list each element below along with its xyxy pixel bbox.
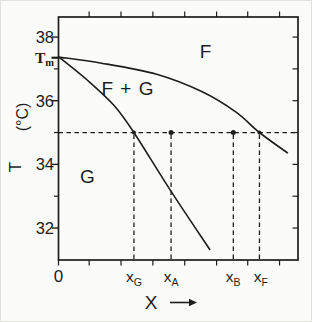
marker-dot-xA <box>169 130 174 135</box>
x-axis-arrow-head <box>189 299 197 306</box>
curve-upper-boundary-F-liquidus <box>59 57 288 153</box>
y-tick-label-36: 36 <box>36 92 54 110</box>
region-label-F+G: F + G <box>101 78 154 99</box>
y-tick-label-32: 32 <box>36 219 54 237</box>
tm-label: Tm <box>35 49 54 68</box>
x-tick-label-0: 0 <box>54 267 63 286</box>
plot-frame <box>59 17 299 260</box>
x-axis-title: X <box>145 292 158 313</box>
x-tick-label-B: xB <box>226 268 241 288</box>
marker-curve-intersection-xG <box>132 131 136 135</box>
x-tick-label-A: xA <box>164 268 179 288</box>
marker-curve-intersection-xF <box>257 131 261 135</box>
region-label-G: G <box>80 166 96 187</box>
y-tick-label-38: 38 <box>36 28 54 46</box>
marker-dot-xB <box>231 130 236 135</box>
x-tick-label-G: xG <box>126 268 142 288</box>
y-axis-title: T <box>6 162 25 172</box>
phase-diagram-figure: 38363432TmFF + GG0xGxAxBxFX(°C)T <box>0 0 312 322</box>
x-tick-label-F: xF <box>254 268 268 288</box>
region-label-F: F <box>200 41 213 62</box>
y-axis-unit-label: (°C) <box>14 103 31 132</box>
phase-diagram-plot: 38363432TmFF + GG0xGxAxBxFX(°C)T <box>1 1 312 322</box>
y-tick-label-34: 34 <box>36 155 54 173</box>
